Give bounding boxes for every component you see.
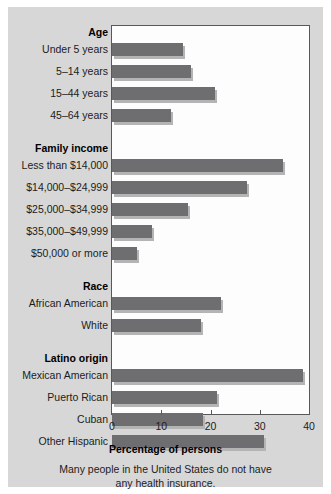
category-label: 45–64 years — [0, 110, 108, 121]
category-label: White — [0, 320, 108, 331]
category-label: $25,000–$34,999 — [0, 204, 108, 215]
caption-line-2: any health insurance. — [22, 476, 309, 490]
x-tick-mark — [161, 410, 162, 415]
group-heading-family-income: Family income — [0, 143, 108, 154]
group-heading-race: Race — [0, 281, 108, 292]
x-tick-label: 20 — [196, 420, 226, 432]
group-heading-latino-origin: Latino origin — [0, 353, 108, 364]
bar — [112, 109, 171, 122]
bar — [112, 369, 303, 382]
category-label: $50,000 or more — [0, 248, 108, 259]
category-label: African American — [0, 298, 108, 309]
bar — [112, 391, 217, 404]
category-label: Under 5 years — [0, 44, 108, 55]
x-tick-label: 30 — [245, 420, 275, 432]
bar — [112, 43, 183, 56]
x-axis-title: Percentage of persons — [8, 443, 323, 455]
bar — [112, 247, 137, 260]
bar — [112, 65, 191, 78]
x-tick-label: 40 — [294, 420, 324, 432]
category-label: Less than $14,000 — [0, 160, 108, 171]
bar — [112, 159, 283, 172]
bar — [112, 297, 221, 310]
x-tick-mark — [260, 410, 261, 415]
x-tick-mark — [211, 410, 212, 415]
category-label: $14,000–$24,999 — [0, 182, 108, 193]
plot-area — [111, 25, 310, 415]
bar — [112, 319, 201, 332]
category-label: 15–44 years — [0, 88, 108, 99]
group-heading-age: Age — [0, 27, 108, 38]
bar — [112, 181, 247, 194]
category-label: Cuban — [0, 414, 108, 425]
bar — [112, 203, 188, 216]
category-label: $35,000–$49,999 — [0, 226, 108, 237]
category-label: 5–14 years — [0, 66, 108, 77]
caption-line-1: Many people in the United States do not … — [22, 462, 309, 476]
bar — [112, 225, 152, 238]
category-label: Puerto Rican — [0, 392, 108, 403]
x-tick-label: 10 — [146, 420, 176, 432]
category-label: Mexican American — [0, 370, 108, 381]
figure-panel: AgeUnder 5 years5–14 years15–44 years45–… — [8, 7, 323, 487]
x-tick-label: 0 — [97, 420, 127, 432]
bar — [112, 87, 215, 100]
